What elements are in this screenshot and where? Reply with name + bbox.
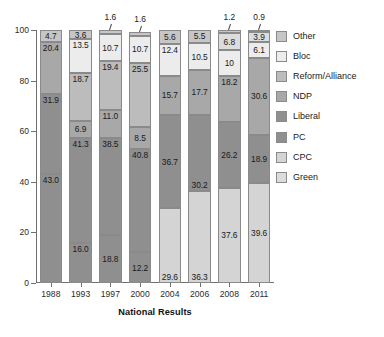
bar-1988[interactable]: 43.031.920.44.7 — [40, 30, 63, 283]
bar-segment-2011-cpc[interactable]: 39.6 — [248, 183, 271, 283]
y-tick-label: 100 — [15, 26, 29, 35]
segment-callout-label: 1.6 — [105, 13, 117, 21]
segment-value-label: 43.0 — [41, 176, 62, 184]
bar-segment-2008-green[interactable]: 6.8 — [218, 33, 241, 50]
legend-item-pc[interactable]: PC — [276, 127, 357, 147]
legend-label: Green — [293, 173, 318, 182]
legend-item-reform-alliance[interactable]: Reform/Alliance — [276, 66, 357, 86]
bar-segment-1993-pc[interactable]: 16.0 — [69, 243, 92, 283]
bar-segment-2008-liberal[interactable]: 26.2 — [218, 122, 241, 188]
bar-segment-1997-ndp[interactable]: 11.0 — [99, 110, 122, 138]
bar-segment-2006-ndp[interactable]: 17.7 — [188, 70, 211, 115]
legend-item-green[interactable]: Green — [276, 167, 357, 187]
x-tick — [110, 283, 111, 287]
legend-swatch — [276, 51, 287, 62]
y-tick — [31, 30, 36, 31]
segment-value-label: 8.5 — [130, 134, 151, 142]
y-tick-label: 0 — [24, 279, 29, 288]
bar-segment-2000-bloc[interactable]: 10.7 — [129, 36, 152, 63]
bar-segment-1988-pc[interactable]: 43.0 — [40, 174, 63, 283]
bar-segment-2011-liberal[interactable]: 18.9 — [248, 135, 271, 183]
bar-segment-2006-liberal[interactable]: 30.2 — [188, 115, 211, 191]
y-tick — [31, 182, 36, 183]
bar-segment-1988-liberal[interactable]: 31.9 — [40, 94, 63, 175]
bar-segment-2011-ndp[interactable]: 30.6 — [248, 58, 271, 135]
legend-label: Liberal — [293, 112, 320, 121]
bar-segment-1988-ndp[interactable]: 20.4 — [40, 42, 63, 94]
bar-2011[interactable]: 39.618.930.66.13.9 — [248, 30, 271, 283]
segment-value-label: 12.2 — [130, 263, 151, 271]
segment-value-label: 6.9 — [70, 125, 91, 133]
bar-segment-2004-liberal[interactable]: 36.7 — [159, 115, 182, 208]
bar-segment-2008-bloc[interactable]: 10 — [218, 50, 241, 75]
x-tick — [140, 283, 141, 287]
bar-segment-2008-other[interactable] — [218, 30, 241, 33]
bar-1993[interactable]: 16.041.36.918.713.53.6 — [69, 30, 92, 283]
bar-segment-1997-reform-alliance[interactable]: 19.4 — [99, 61, 122, 110]
bar-segment-1997-liberal[interactable]: 38.5 — [99, 138, 122, 235]
bar-segment-2004-ndp[interactable]: 15.7 — [159, 76, 182, 116]
y-tick — [31, 283, 36, 284]
bar-segment-1997-bloc[interactable]: 10.7 — [99, 34, 122, 61]
segment-value-label: 25.5 — [130, 65, 151, 73]
legend-swatch — [276, 91, 287, 102]
segment-value-label: 11.0 — [100, 112, 121, 120]
bar-segment-1997-pc[interactable]: 18.8 — [99, 235, 122, 283]
y-tick-label: 60 — [20, 127, 29, 136]
y-tick — [31, 131, 36, 132]
legend-swatch — [276, 111, 287, 122]
x-tick-label-2008: 2008 — [220, 290, 239, 299]
bar-segment-2000-pc[interactable]: 12.2 — [129, 252, 152, 283]
bar-segment-1993-bloc[interactable]: 13.5 — [69, 39, 92, 73]
legend-item-ndp[interactable]: NDP — [276, 87, 357, 107]
x-tick — [170, 283, 171, 287]
legend-item-other[interactable]: Other — [276, 26, 357, 46]
bar-2000[interactable]: 12.240.88.525.510.7 — [129, 30, 152, 283]
bar-segment-1988-other[interactable]: 4.7 — [40, 30, 63, 42]
bar-segment-2011-green[interactable]: 3.9 — [248, 32, 271, 42]
x-tick — [81, 283, 82, 287]
segment-value-label: 18.9 — [249, 155, 270, 163]
bar-segment-2000-ndp[interactable]: 8.5 — [129, 127, 152, 149]
bar-segment-2004-cpc[interactable]: 29.6 — [159, 208, 182, 283]
bar-2008[interactable]: 37.626.218.2106.8 — [218, 30, 241, 283]
legend-label: Other — [293, 32, 316, 41]
bar-1997[interactable]: 18.838.511.019.410.7 — [99, 30, 122, 283]
bar-segment-1997-other[interactable] — [99, 30, 122, 34]
segment-value-label: 18.8 — [100, 255, 121, 263]
y-tick-label: 80 — [20, 76, 29, 85]
bar-segment-2004-bloc[interactable]: 12.4 — [159, 44, 182, 75]
bar-segment-2000-reform-alliance[interactable]: 25.5 — [129, 63, 152, 128]
bar-segment-2004-other[interactable]: 5.6 — [159, 30, 182, 44]
segment-value-label: 3.9 — [249, 33, 270, 41]
bar-segment-2006-other[interactable]: 5.5 — [188, 30, 211, 44]
segment-value-label: 12.4 — [160, 46, 181, 54]
segment-value-label: 20.4 — [41, 44, 62, 52]
segment-value-label: 18.2 — [219, 78, 240, 86]
bar-segment-2008-ndp[interactable]: 18.2 — [218, 76, 241, 122]
x-tick-label-2006: 2006 — [190, 290, 209, 299]
segment-value-label: 6.1 — [249, 46, 270, 54]
bar-segment-2011-bloc[interactable]: 6.1 — [248, 42, 271, 57]
bar-segment-2000-liberal[interactable]: 40.8 — [129, 149, 152, 252]
segment-value-label: 30.2 — [189, 181, 210, 189]
bar-segment-1993-other[interactable]: 3.6 — [69, 30, 92, 39]
bar-segment-1993-ndp[interactable]: 6.9 — [69, 121, 92, 138]
bar-segment-1993-reform-alliance[interactable]: 18.7 — [69, 73, 92, 120]
bar-segment-1993-liberal[interactable]: 41.3 — [69, 138, 92, 242]
bar-2006[interactable]: 36.330.217.710.55.5 — [188, 30, 211, 283]
bar-segment-2000-other[interactable] — [129, 32, 152, 36]
segment-value-label: 40.8 — [130, 151, 151, 159]
legend-item-liberal[interactable]: Liberal — [276, 107, 357, 127]
bar-2004[interactable]: 29.636.715.712.45.6 — [159, 30, 182, 283]
bar-segment-2008-cpc[interactable]: 37.6 — [218, 188, 241, 283]
x-tick — [200, 283, 201, 287]
segment-value-label: 19.4 — [100, 63, 121, 71]
legend-item-cpc[interactable]: CPC — [276, 147, 357, 167]
bar-segment-2006-bloc[interactable]: 10.5 — [188, 43, 211, 70]
bar-segment-2006-cpc[interactable]: 36.3 — [188, 191, 211, 283]
segment-callout-label: 0.9 — [253, 13, 265, 21]
bar-segment-2011-other[interactable] — [248, 30, 271, 32]
legend-item-bloc[interactable]: Bloc — [276, 46, 357, 66]
segment-value-label: 10.7 — [130, 45, 151, 53]
